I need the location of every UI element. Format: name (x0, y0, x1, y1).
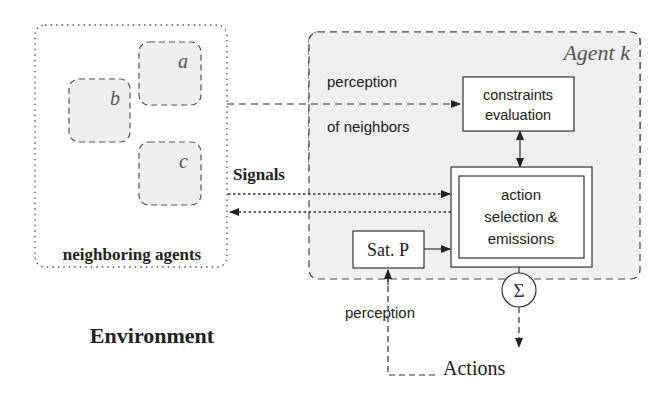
sum-node: Σ (502, 273, 536, 307)
perception-neighbors-label-1: perception (327, 73, 397, 90)
neighbor-agent-c: c (139, 142, 201, 205)
action-label-3: emissions (488, 230, 555, 247)
environment-label: Environment (90, 323, 215, 348)
agent-k-title: Agent k (561, 40, 631, 65)
signals-label: Signals (233, 165, 285, 184)
neighbor-c-label: c (179, 150, 188, 172)
action-label-1: action (501, 186, 541, 203)
constraints-label-1: constraints (483, 87, 553, 103)
sat-p-node: Sat. P (353, 231, 424, 268)
neighbors-group: a b c neighboring agents (35, 25, 227, 267)
action-label-2: selection & (484, 208, 557, 225)
actions-label: Actions (443, 357, 505, 379)
perception-neighbors-label-2: of neighbors (327, 118, 410, 135)
neighbor-a-label: a (178, 50, 188, 72)
neighbor-agent-a: a (139, 42, 201, 105)
perception-loop-line (388, 270, 435, 375)
sum-symbol: Σ (513, 280, 524, 301)
agent-diagram: a b c neighboring agents Agent k percept… (0, 0, 654, 395)
neighbors-group-label: neighboring agents (63, 245, 202, 264)
constraints-evaluation-node: constraints evaluation (463, 77, 574, 131)
neighbor-agent-b: b (69, 79, 130, 142)
perception-bottom-label: perception (345, 304, 415, 321)
sat-p-label: Sat. P (367, 240, 409, 260)
action-selection-node: action selection & emissions (451, 167, 592, 267)
constraints-label-2: evaluation (485, 107, 551, 123)
neighbor-b-label: b (110, 87, 120, 109)
